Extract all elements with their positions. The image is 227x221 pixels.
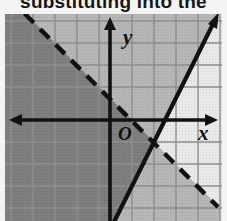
x-axis-label: x [197,121,209,145]
origin-label: O [118,123,132,144]
coordinate-plane-graph: y x O [5,14,222,221]
cropped-caption-text: substituting into the [0,0,227,13]
graph-plate: y x O [5,14,222,221]
